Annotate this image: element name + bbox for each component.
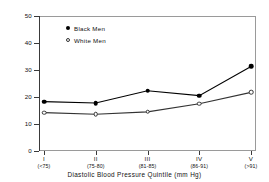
chart-figure: 5 Year Death Rate Per 1000 (Age-Adjusted… bbox=[0, 0, 269, 182]
x-axis-title: Diastolic Blood Pressure Quintile (mm Hg… bbox=[0, 171, 269, 178]
series-line-white-men bbox=[44, 92, 251, 114]
series-lines bbox=[0, 0, 269, 182]
series-line-black-men bbox=[44, 66, 251, 102]
